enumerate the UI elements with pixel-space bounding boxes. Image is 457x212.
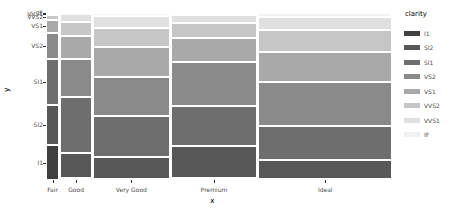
mosaic-tile	[47, 15, 58, 19]
x-axis-tick-mark	[53, 180, 54, 183]
mosaic-tile	[61, 36, 91, 59]
legend-item-label: VS1	[424, 88, 436, 95]
y-axis-tick-label: VS2	[4, 43, 43, 49]
legend-item[interactable]: I1	[404, 26, 457, 41]
y-axis-tick-label: SI1	[4, 79, 43, 85]
mosaic-tile	[259, 17, 391, 30]
mosaic-tile	[61, 22, 91, 36]
mosaic-tile	[259, 126, 391, 160]
legend-item[interactable]: VS1	[404, 84, 457, 99]
mosaic-tile	[61, 12, 91, 14]
mosaic-column	[61, 13, 91, 180]
legend-item-label: SI2	[424, 44, 433, 51]
x-axis-tick-mark	[131, 180, 132, 183]
legend-item-label: I1	[424, 30, 430, 37]
legend-item[interactable]: SI2	[404, 41, 457, 56]
mosaic-tile	[61, 97, 91, 152]
mosaic-tile	[172, 146, 257, 178]
mosaic-column	[172, 13, 257, 180]
mosaic-tile	[94, 47, 168, 77]
x-axis-tick-label: Very Good	[116, 186, 147, 193]
x-axis: FairGoodVery GoodPremiumIdeal	[47, 180, 391, 196]
legend-swatch	[404, 60, 420, 65]
y-axis-tick-label: SI2	[4, 122, 43, 128]
legend-swatch	[404, 132, 420, 137]
legend-swatch	[404, 103, 420, 108]
x-axis-title: x	[210, 196, 214, 205]
mosaic-column	[47, 13, 58, 180]
legend-swatch	[404, 118, 420, 123]
legend-items: I1SI2SI1VS2VS1VVS2VVS1IF	[404, 26, 457, 142]
mosaic-tile	[172, 13, 257, 15]
mosaic-column	[259, 13, 391, 180]
legend-item-label: SI1	[424, 59, 433, 66]
mosaic-tile	[172, 38, 257, 62]
mosaic-tile	[172, 23, 257, 38]
mosaic-tile	[259, 160, 391, 179]
y-axis-tick-mark	[43, 26, 46, 27]
mosaic-tile	[172, 106, 257, 146]
mosaic-tile	[94, 13, 168, 16]
legend-swatch	[404, 74, 420, 79]
x-axis-tick-mark	[325, 180, 326, 183]
legend: clarity I1SI2SI1VS2VS1VVS2VVS1IF	[404, 10, 457, 142]
mosaic-tile	[259, 52, 391, 82]
mosaic-column	[94, 13, 168, 180]
legend-item-label: VVS1	[424, 117, 440, 124]
mosaic-tile	[61, 59, 91, 97]
legend-item[interactable]: VVS2	[404, 99, 457, 114]
mosaic-tile	[259, 82, 391, 126]
mosaic-tile	[94, 116, 168, 157]
mosaic-tile	[47, 33, 58, 59]
legend-swatch	[404, 31, 420, 36]
y-axis-tick-mark	[43, 17, 46, 18]
mosaic-tile	[172, 15, 257, 23]
y-axis: I1SI2SI1VS2VS1VVS2VVS1IF	[0, 13, 43, 180]
y-axis-tick-label: I1	[4, 160, 43, 166]
mosaic-tile	[47, 59, 58, 105]
y-axis-tick-mark	[43, 13, 46, 14]
legend-item-label: VVS2	[424, 102, 440, 109]
mosaic-tile	[259, 30, 391, 52]
mosaic-tile	[61, 14, 91, 22]
mosaic-tile	[172, 62, 257, 106]
x-axis-tick-mark	[76, 180, 77, 183]
y-axis-tick-mark	[43, 125, 46, 126]
legend-swatch	[404, 89, 420, 94]
x-axis-tick-label: Ideal	[318, 186, 333, 193]
mosaic-tile	[47, 13, 58, 15]
legend-item[interactable]: IF	[404, 128, 457, 143]
y-axis-tick-mark	[43, 163, 46, 164]
mosaic-tile	[47, 11, 58, 13]
mosaic-tile	[47, 105, 58, 145]
legend-swatch	[404, 45, 420, 50]
legend-item[interactable]: SI1	[404, 55, 457, 70]
legend-item-label: VS2	[424, 73, 436, 80]
mosaic-tile	[47, 20, 58, 34]
mosaic-tile	[94, 28, 168, 48]
mosaic-tile	[94, 157, 168, 179]
mosaic-tile	[94, 16, 168, 28]
mosaic-tile	[259, 13, 391, 17]
plot-panel	[47, 13, 391, 180]
y-axis-tick-mark	[43, 46, 46, 47]
y-axis-tick-mark	[43, 82, 46, 83]
x-axis-tick-mark	[214, 180, 215, 183]
y-axis-tick-label: IF	[4, 10, 43, 16]
legend-item-label: IF	[424, 131, 429, 138]
mosaic-tile	[61, 153, 91, 179]
legend-item[interactable]: VVS1	[404, 113, 457, 128]
y-axis-tick-label: VS1	[4, 23, 43, 29]
x-axis-tick-label: Premium	[201, 186, 228, 193]
x-axis-tick-label: Good	[68, 186, 84, 193]
x-axis-tick-label: Fair	[47, 186, 58, 193]
legend-title: clarity	[405, 10, 457, 18]
chart-root: y I1SI2SI1VS2VS1VVS2VVS1IF FairGoodVery …	[0, 0, 457, 212]
mosaic-tile	[94, 77, 168, 116]
mosaic-tile	[47, 145, 58, 180]
legend-item[interactable]: VS2	[404, 70, 457, 85]
y-axis-tick-mark	[43, 14, 46, 15]
